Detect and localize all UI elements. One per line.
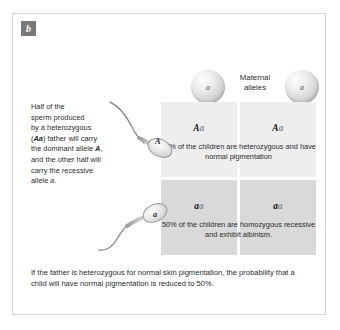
figure-caption: If the father is heterozygous for normal…	[31, 267, 309, 289]
description-line-8-post: .	[54, 176, 56, 185]
sperm-recessive-icon	[97, 198, 177, 256]
description-line-3: by a heterozygous	[31, 123, 91, 132]
punnett-cell-bottom-right: aa	[240, 180, 316, 255]
panel-letter-badge: b	[21, 21, 36, 36]
genotype-top-right: Aa	[240, 123, 316, 133]
maternal-alleles-label: Maternal alleles	[225, 73, 285, 93]
genotype-recessive-allele-2: a	[199, 201, 204, 211]
description-line-1: Half of the	[31, 102, 65, 111]
description-line-6: and the other half will	[31, 155, 101, 164]
sperm-dominant-icon	[107, 100, 177, 162]
maternal-label-line-1: Maternal	[240, 73, 270, 82]
description-line-5-post: ,	[100, 144, 102, 153]
sperm-dominant-allele-label: A	[155, 137, 161, 146]
genotype-recessive-allele: a	[279, 123, 284, 133]
description-line-8-pre: allele	[31, 176, 50, 185]
description-line-5-pre: the dominant allele	[31, 144, 95, 153]
ovum-left: a	[191, 70, 225, 104]
ovum-right: a	[285, 70, 319, 104]
sperm-cell-recessive: a	[97, 198, 177, 260]
sperm-recessive-allele-label: a	[153, 210, 157, 219]
punnett-square: Aa Aa aa aa	[161, 102, 316, 255]
maternal-label-line-2: alleles	[244, 83, 266, 92]
punnett-cell-top-right: Aa	[240, 102, 316, 177]
description-line-2: sperm produced	[31, 113, 84, 122]
ovum-left-allele-label: a	[191, 70, 225, 104]
description-genotype-aa: Aa	[33, 134, 42, 143]
ovum-right-allele-label: a	[285, 70, 319, 104]
sperm-cell-dominant: A	[107, 100, 177, 166]
figure-card: b Half of the sperm produced by a hetero…	[12, 13, 326, 315]
genotype-recessive-allele: a	[200, 123, 205, 133]
description-line-7: carry the recessive	[31, 166, 93, 175]
genotype-bottom-right: aa	[240, 201, 316, 211]
genotype-recessive-allele-2: a	[278, 201, 283, 211]
description-line-4-post: ) father will carry	[43, 134, 97, 143]
